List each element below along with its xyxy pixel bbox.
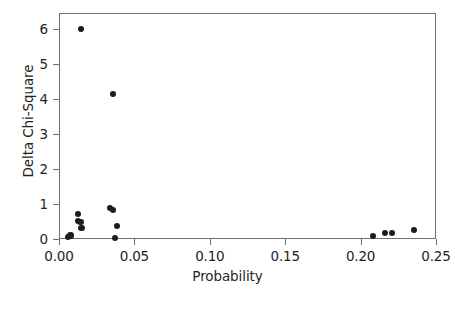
x-tick-label: 0.20	[331, 248, 391, 264]
data-point	[78, 26, 84, 32]
data-point	[110, 91, 116, 97]
x-tick-mark	[285, 239, 286, 245]
x-tick-mark	[59, 239, 60, 245]
x-tick-label: 0.00	[29, 248, 89, 264]
x-tick-mark	[134, 239, 135, 245]
y-tick-mark	[53, 99, 59, 100]
data-point	[78, 225, 84, 231]
data-point	[411, 227, 417, 233]
y-tick-mark	[53, 204, 59, 205]
y-axis-title: Delta Chi-Square	[20, 21, 36, 221]
x-tick-label: 0.25	[406, 248, 455, 264]
data-point	[112, 235, 118, 241]
y-tick-mark	[53, 239, 59, 240]
y-tick-mark	[53, 134, 59, 135]
x-tick-mark	[361, 239, 362, 245]
data-point	[382, 230, 388, 236]
data-point	[370, 233, 376, 239]
y-tick-mark	[53, 29, 59, 30]
data-point	[389, 230, 395, 236]
y-tick-mark	[53, 169, 59, 170]
x-axis-title: Probability	[0, 268, 455, 284]
data-point	[75, 211, 81, 217]
x-tick-mark	[210, 239, 211, 245]
data-point	[110, 207, 116, 213]
x-tick-mark	[436, 239, 437, 245]
y-tick-label: 0	[18, 231, 48, 247]
y-tick-mark	[53, 64, 59, 65]
scatter-plot-figure: 0.000.050.100.150.200.25 0123456 Probabi…	[0, 0, 455, 310]
data-point	[67, 232, 73, 238]
x-tick-label: 0.10	[180, 248, 240, 264]
x-tick-label: 0.15	[255, 248, 315, 264]
data-point	[114, 223, 120, 229]
x-tick-label: 0.05	[104, 248, 164, 264]
plot-area	[59, 13, 436, 239]
